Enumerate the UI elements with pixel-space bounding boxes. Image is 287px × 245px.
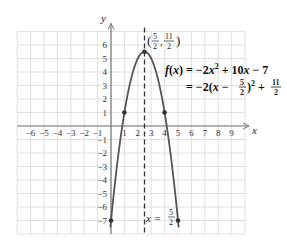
x-tick-label: 9: [229, 128, 234, 138]
y-tick-label: 6: [103, 40, 108, 50]
svg-text:11: 11: [272, 78, 280, 87]
y-tick-label: −5: [97, 189, 107, 199]
svg-text:,: ,: [160, 36, 163, 47]
x-tick-label: 2: [136, 128, 141, 138]
x-axis-label: x: [251, 124, 257, 136]
data-point: [109, 218, 114, 223]
parabola-graph: −6−5−4−3−2−1123456789−7−6−5−4−3−2−112345…: [0, 0, 287, 245]
y-tick-label: 3: [103, 81, 108, 91]
y-tick-label: −6: [97, 202, 107, 212]
grid: [17, 32, 245, 235]
svg-text:11: 11: [165, 32, 173, 41]
x-tick-label: −3: [66, 128, 76, 138]
y-tick-label: 5: [103, 54, 108, 64]
y-tick-label: −1: [97, 135, 107, 145]
svg-text:(: (: [147, 33, 151, 48]
x-tick-label: 6: [189, 128, 194, 138]
svg-text:2: 2: [153, 42, 157, 51]
data-point: [142, 49, 147, 54]
svg-text:2: 2: [274, 88, 278, 97]
svg-text:f(x) = −2x2 + 10x − 7: f(x) = −2x2 + 10x − 7: [165, 62, 268, 77]
x-tick-label: 8: [216, 128, 221, 138]
y-tick-label: −7: [97, 216, 107, 226]
symmetry-label: x = 5 2: [145, 208, 175, 227]
svg-text:)2 +: )2 +: [247, 79, 265, 94]
x-tick-label: 7: [203, 128, 208, 138]
svg-text:5: 5: [240, 78, 244, 87]
y-tick-label: −4: [97, 175, 107, 185]
data-point: [162, 110, 167, 115]
x-tick-label: −2: [79, 128, 89, 138]
svg-text:2: 2: [169, 218, 173, 227]
x-tick-label: −6: [26, 128, 36, 138]
y-tick-label: 4: [103, 67, 108, 77]
y-tick-label: 2: [103, 94, 108, 104]
svg-text:5: 5: [169, 208, 173, 217]
x-tick-label: −5: [39, 128, 49, 138]
x-tick-label: −4: [53, 128, 63, 138]
svg-text:5: 5: [153, 32, 157, 41]
svg-text:x =: x =: [145, 212, 161, 224]
x-tick-label: 5: [176, 128, 181, 138]
y-axis-label: y: [100, 12, 106, 24]
data-point: [176, 218, 181, 223]
svg-text:): ): [176, 33, 180, 48]
x-tick-label: 1: [122, 128, 127, 138]
y-tick-label: −2: [97, 148, 107, 158]
y-tick-label: −3: [97, 162, 107, 172]
equation-label: f(x) = −2x2 + 10x − 7 = −2(x − 5 2 )2 + …: [165, 62, 281, 97]
svg-text:2: 2: [167, 42, 171, 51]
vertex-label: ( 5 2 , 11 2 ): [147, 32, 180, 51]
svg-text:2: 2: [240, 88, 244, 97]
x-tick-label: 3: [149, 128, 154, 138]
svg-text:= −2(x −: = −2(x −: [186, 80, 229, 94]
data-point: [122, 110, 127, 115]
y-tick-label: 1: [103, 108, 108, 118]
